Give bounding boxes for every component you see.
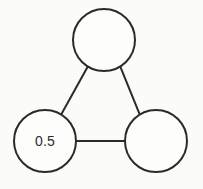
diagram-canvas: 0.5	[0, 0, 203, 189]
node-bottom-left-label: 0.5	[35, 133, 55, 149]
node-top[interactable]	[73, 9, 135, 71]
node-top-circle[interactable]	[73, 9, 135, 71]
node-link-diagram: 0.5	[0, 0, 203, 189]
node-bottom-right[interactable]	[125, 110, 187, 172]
node-bottom-left[interactable]: 0.5	[14, 110, 76, 172]
node-bottom-right-circle[interactable]	[125, 110, 187, 172]
